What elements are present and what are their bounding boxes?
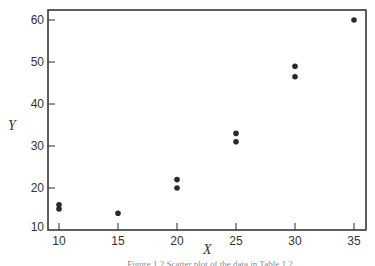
data-point: [174, 177, 180, 183]
x-tick-label: 35: [347, 234, 361, 248]
data-point: [56, 206, 62, 212]
x-axis-title: X: [202, 242, 212, 257]
y-axis-title: Y: [8, 118, 18, 133]
x-tick-label: 10: [52, 234, 66, 248]
figure-caption: Figure 1.2 Scatter plot of the data in T…: [60, 257, 360, 266]
data-point: [233, 131, 239, 137]
data-point: [174, 185, 180, 191]
plot-frame: [48, 10, 366, 230]
y-axis: 102030405060: [31, 13, 55, 234]
x-tick-label: 20: [170, 234, 184, 248]
data-point: [233, 139, 239, 145]
y-tick-label: 50: [31, 55, 45, 69]
data-points: [56, 17, 357, 216]
y-tick-label: 40: [31, 97, 45, 111]
scatter-chart: 102030405060 101520253035 Y X: [0, 0, 375, 266]
data-point: [351, 17, 357, 23]
data-point: [292, 63, 298, 69]
x-tick-label: 30: [288, 234, 302, 248]
data-point: [115, 210, 121, 216]
y-tick-label: 30: [31, 139, 45, 153]
x-tick-label: 25: [229, 234, 243, 248]
y-tick-label: 10: [31, 220, 45, 234]
x-tick-label: 15: [111, 234, 125, 248]
y-tick-label: 20: [31, 181, 45, 195]
y-tick-label: 60: [31, 13, 45, 27]
data-point: [292, 74, 298, 80]
